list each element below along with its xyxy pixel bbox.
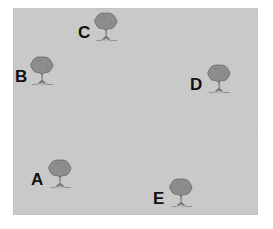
field-panel: C B [13,8,258,215]
background-watermark [59,90,209,130]
tree-label-c: C [78,24,90,41]
tree-label-e: E [153,190,164,207]
tree-label-a: A [31,171,43,188]
tree-icon [166,177,196,209]
panel-seam [13,128,258,129]
diagram-canvas: C B [0,0,273,229]
tree-icon [45,158,75,190]
tree-icon [27,55,57,87]
tree-icon [204,63,234,95]
tree-label-b: B [15,68,27,85]
tree-icon [91,11,121,43]
tree-label-d: D [190,76,202,93]
